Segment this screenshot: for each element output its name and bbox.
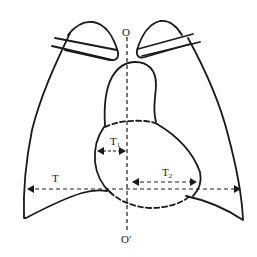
label-t1: T1: [110, 135, 121, 149]
heart-left-border: [95, 127, 110, 192]
label-t2: T2: [162, 166, 173, 180]
right-clavicle-lower: [142, 42, 200, 56]
left-lung-outline: [24, 33, 107, 218]
label-t1-sub: 1: [117, 141, 121, 149]
heart-lower-dashed-border: [110, 192, 190, 208]
chest-diagram: O O′ T T1 T2: [0, 0, 257, 257]
heart-upper-outline: [105, 62, 156, 126]
label-t: T: [52, 172, 59, 184]
right-clavicle: [138, 34, 193, 49]
label-t2-sub: 2: [169, 172, 173, 180]
heart-right-border: [157, 124, 201, 196]
right-lung-outline: [186, 38, 243, 220]
heart-upper-dashed-border: [105, 121, 157, 127]
diagram-canvas: O O′ T T1 T2: [0, 0, 257, 257]
right-lung-apex: [137, 21, 190, 58]
label-o: O: [122, 26, 130, 38]
label-o-prime: O′: [121, 233, 131, 245]
